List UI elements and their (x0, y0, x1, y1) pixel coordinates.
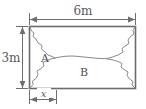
left-dimension-label: 3m (1, 51, 21, 65)
region-label-a: A (40, 52, 50, 65)
top-dimension-label: 6m (73, 4, 93, 18)
bottom-dimension-label: x (41, 88, 47, 99)
region-label-b: B (80, 66, 88, 79)
geometry-figure: 6m 3m A B (0, 0, 146, 109)
figure-canvas: 6m 3m A B (0, 0, 146, 109)
